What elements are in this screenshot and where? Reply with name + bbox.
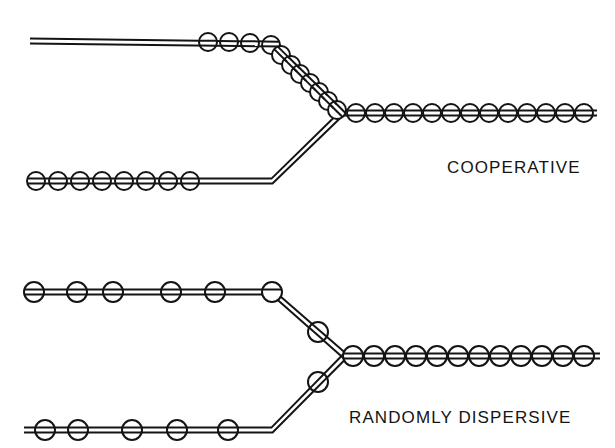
bead-marker (406, 346, 426, 366)
bead-marker (68, 420, 88, 440)
bead-marker (366, 104, 384, 122)
bead-marker (159, 172, 177, 190)
strand-rail-bottom (28, 295, 343, 358)
bead-marker (137, 172, 155, 190)
bead-marker (67, 282, 87, 302)
bead-marker (364, 346, 384, 366)
bead-marker (480, 104, 498, 122)
bead-marker (385, 346, 405, 366)
beads-cooperative-lower-arm (27, 172, 199, 190)
beads-randomly-dispersive-upper-arm (24, 282, 328, 342)
bead-marker (469, 346, 489, 366)
bead-marker (511, 346, 531, 366)
bead-marker (49, 172, 67, 190)
bead-marker (442, 104, 460, 122)
beads-randomly-dispersive-trunk (343, 346, 594, 366)
bead-marker (448, 346, 468, 366)
randomly-dispersive-label: RANDOMLY DISPERSIVE (349, 408, 571, 428)
strand-rail-top (30, 111, 340, 178)
bead-marker (35, 420, 55, 440)
strand-diagram (0, 0, 615, 448)
bead-marker (308, 372, 328, 392)
bead-marker (499, 104, 517, 122)
bead-marker (404, 104, 422, 122)
strand-rail-top (24, 354, 343, 427)
bead-marker (308, 322, 328, 342)
bead-marker (199, 33, 217, 51)
beads-cooperative-trunk (347, 104, 593, 122)
bead-marker (423, 104, 441, 122)
bead-marker (262, 282, 282, 302)
bead-marker (241, 34, 259, 52)
bead-marker (461, 104, 479, 122)
bead-marker (347, 104, 365, 122)
bead-marker (385, 104, 403, 122)
beads-cooperative-upper-arm (199, 33, 346, 119)
cooperative-label: COOPERATIVE (447, 158, 581, 178)
bead-marker (518, 104, 536, 122)
bead-marker (27, 172, 45, 190)
bead-marker (537, 104, 555, 122)
bead-marker (343, 346, 363, 366)
bead-marker (181, 172, 199, 190)
bead-marker (556, 104, 574, 122)
bead-marker (115, 172, 133, 190)
bead-marker (122, 420, 142, 440)
bead-marker (205, 282, 225, 302)
bead-marker (218, 420, 238, 440)
bead-marker (103, 282, 123, 302)
bead-marker (574, 346, 594, 366)
bead-marker (71, 172, 89, 190)
bead-marker (553, 346, 573, 366)
beads-randomly-dispersive-lower-arm (35, 372, 328, 440)
bead-marker (532, 346, 552, 366)
bead-marker (161, 282, 181, 302)
bead-marker (490, 346, 510, 366)
bead-marker (93, 172, 111, 190)
bead-marker (167, 420, 187, 440)
bead-marker (24, 282, 44, 302)
figure-canvas: COOPERATIVE RANDOMLY DISPERSIVE (0, 0, 615, 448)
bead-marker (575, 104, 593, 122)
bead-marker (427, 346, 447, 366)
